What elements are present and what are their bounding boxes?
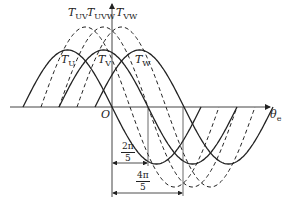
origin-label: O [101, 109, 110, 120]
label-t-vw: TVW [116, 7, 137, 21]
dim-label-4pi5: 4π5 [136, 171, 150, 192]
label-t-uvw: TUVW [87, 7, 115, 21]
label-t-uv: TUV [68, 7, 88, 21]
x-axis-label: θe [270, 109, 281, 123]
torque-waveform-diagram: TUV TUVW TVW TU TV TW O θe 2π5 4π5 [0, 0, 287, 204]
label-t-v: TV [98, 54, 111, 68]
label-t-w: TW [135, 54, 151, 68]
dim-label-2pi5: 2π5 [121, 142, 135, 163]
label-t-u: TU [61, 54, 75, 68]
